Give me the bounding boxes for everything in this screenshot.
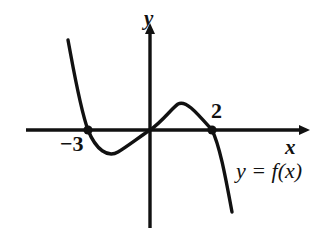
graph-canvas [0,0,328,237]
y-axis-label: y [144,8,153,29]
function-graph-figure: y x −3 2 y = f(x) [0,0,328,237]
x-intercept-label-two: 2 [211,100,222,122]
point-marker-neg3 [83,125,92,134]
x-intercept-label-neg3: −3 [60,133,84,155]
point-marker-two [207,125,216,134]
x-axis-label: x [285,137,296,158]
curve-equation-label: y = f(x) [236,160,302,182]
